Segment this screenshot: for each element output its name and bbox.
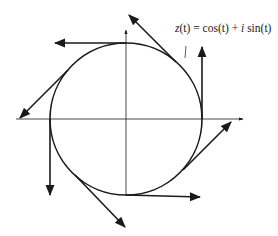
tangent-vector-lower-left (75, 175, 125, 227)
label-leader-line (185, 46, 186, 58)
tangent-vector-upper-right (129, 15, 176, 62)
equation-label: z(t) = cos(t) + i sin(t) (175, 22, 271, 34)
tangent-vector-upper-left (20, 70, 68, 118)
tangent-vector-lower-right (183, 122, 231, 170)
circle-diagram (0, 0, 278, 236)
tangent-vector-bottom (126, 195, 200, 197)
